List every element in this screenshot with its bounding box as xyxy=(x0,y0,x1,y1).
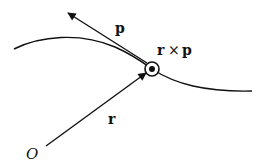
momentum-label: p xyxy=(115,20,125,36)
diagram-canvas: p r × p r O xyxy=(0,0,266,163)
cross-product-operator: × xyxy=(168,42,180,58)
particle-out-of-page-icon xyxy=(145,62,159,76)
position-label: r xyxy=(108,111,116,127)
cross-product-left: r xyxy=(157,42,165,58)
position-vector-arrow xyxy=(46,73,146,146)
cross-product-right: p xyxy=(182,42,192,58)
origin-label: O xyxy=(26,145,38,163)
cross-product-label: r × p xyxy=(157,42,192,58)
